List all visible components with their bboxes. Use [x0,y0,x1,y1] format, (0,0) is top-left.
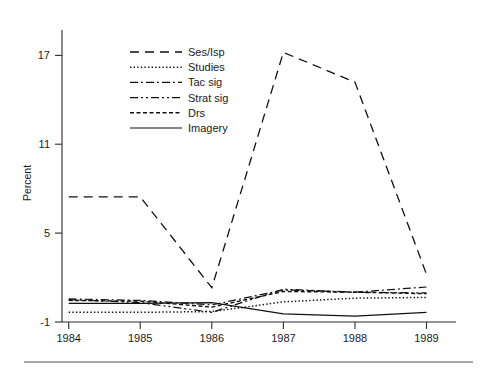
x-tick-label: 1986 [200,332,224,344]
legend-label: Studies [188,61,225,73]
legend-label: Drs [188,107,206,119]
x-tick-label: 1989 [414,332,438,344]
legend-label: Tac sig [188,76,222,88]
y-tick-label: -1 [40,316,50,328]
y-axis-title: Percent [21,165,33,201]
y-tick-label: 11 [39,138,50,150]
figure-container: 17 11 5 -1 Percent 1984 1985 1986 1987 1… [0,0,497,371]
x-tick-label: 1988 [343,332,367,344]
y-tick-label: 5 [44,227,50,239]
x-tick-label: 1987 [271,332,295,344]
x-tick-label: 1985 [128,332,152,344]
x-tick-label: 1984 [56,332,80,344]
legend-label: Imagery [188,122,228,134]
legend-label: Strat sig [188,92,228,104]
chart-background [0,0,497,371]
y-tick-label: 17 [38,49,50,61]
line-chart: 17 11 5 -1 Percent 1984 1985 1986 1987 1… [0,0,497,371]
legend-label: Ses/Isp [188,46,225,58]
